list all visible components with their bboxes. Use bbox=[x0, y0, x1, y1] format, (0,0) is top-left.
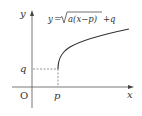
equation-lhs: y bbox=[47, 14, 53, 24]
p-label: p bbox=[54, 90, 61, 101]
q-label: q bbox=[20, 63, 26, 74]
equation-tail: +q bbox=[103, 14, 116, 24]
y-axis-arrow-icon bbox=[30, 10, 34, 16]
x-axis-label: x bbox=[127, 89, 133, 100]
equation: y = a(x−p) +q bbox=[47, 12, 116, 24]
origin-label: O bbox=[20, 90, 28, 101]
equation-equals: = bbox=[54, 14, 61, 24]
sqrt-curve bbox=[58, 29, 129, 69]
function-graph: y x O p q y = a(x−p) +q bbox=[0, 0, 142, 116]
y-axis-label: y bbox=[19, 8, 26, 19]
equation-radicand: a(x−p) bbox=[68, 14, 97, 24]
